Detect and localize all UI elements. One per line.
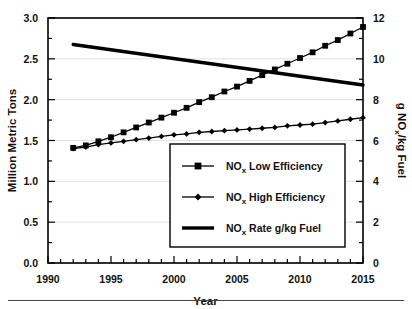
data-marker [184, 131, 190, 137]
x-tick-label: 2010 [288, 273, 312, 285]
chart-figure: 1990199520002005201020150.00.51.01.52.02… [0, 0, 412, 309]
data-marker [335, 118, 341, 124]
data-marker [171, 132, 177, 138]
data-marker [297, 55, 303, 61]
y2-tick-label: 6 [373, 135, 379, 147]
bottom-divider [8, 300, 404, 301]
data-marker [310, 49, 316, 55]
y-tick-label: 1.5 [23, 135, 38, 147]
series-line [73, 27, 363, 148]
y-axis-title: Million Metric Tons [6, 89, 18, 192]
y-tick-label: 3.0 [23, 12, 38, 24]
data-marker [285, 123, 291, 129]
data-marker [259, 125, 265, 131]
y2-axis-title: g NOx/kg Fuel [393, 103, 408, 178]
data-marker [209, 129, 215, 135]
data-marker [133, 125, 139, 131]
nox-emissions-line-chart: 1990199520002005201020150.00.51.01.52.02… [0, 0, 412, 309]
x-tick-label: 2005 [225, 273, 249, 285]
data-marker [196, 129, 202, 135]
data-marker [247, 126, 253, 132]
data-marker [247, 78, 253, 84]
data-marker [133, 137, 139, 143]
data-marker [272, 125, 278, 131]
series-3 [73, 45, 363, 85]
x-tick-label: 2000 [162, 273, 186, 285]
data-marker [196, 99, 202, 105]
x-tick-label: 1995 [99, 273, 123, 285]
data-marker [108, 134, 114, 140]
y-tick-label: 0.5 [23, 216, 38, 228]
data-marker [108, 140, 114, 146]
data-marker [146, 120, 152, 126]
data-marker [171, 110, 177, 116]
data-marker [121, 129, 127, 135]
data-marker [159, 115, 165, 121]
y-tick-label: 2.0 [23, 94, 38, 106]
y2-tick-label: 8 [373, 94, 379, 106]
data-marker [285, 61, 291, 67]
data-marker [322, 120, 328, 126]
data-marker [335, 37, 341, 43]
y2-tick-label: 10 [373, 53, 385, 65]
data-marker [310, 121, 316, 127]
y2-tick-label: 12 [373, 12, 385, 24]
data-marker [222, 89, 228, 95]
data-marker [234, 127, 240, 133]
x-tick-label: 1990 [36, 273, 60, 285]
x-axis-title: Year [193, 295, 218, 307]
data-marker [348, 31, 354, 37]
y2-tick-label: 4 [373, 175, 379, 187]
data-marker [360, 24, 366, 30]
data-marker [234, 84, 240, 90]
series-line [73, 45, 363, 85]
data-marker [184, 105, 190, 111]
y-tick-label: 1.0 [23, 175, 38, 187]
chart-legend: NOx Low EfficiencyNOx High EfficiencyNOx… [170, 144, 345, 247]
y-tick-label: 2.5 [23, 53, 38, 65]
x-tick-label: 2015 [351, 273, 375, 285]
data-marker [322, 43, 328, 49]
data-marker [222, 128, 228, 134]
data-series [70, 24, 366, 151]
y-tick-label: 0.0 [23, 257, 38, 269]
data-marker [297, 122, 303, 128]
data-marker [348, 116, 354, 122]
data-marker [259, 72, 265, 78]
data-marker [209, 94, 215, 100]
data-marker [146, 135, 152, 141]
data-marker [121, 138, 127, 144]
data-marker [195, 163, 202, 170]
y2-tick-label: 0 [373, 257, 379, 269]
y2-tick-label: 2 [373, 216, 379, 228]
data-marker [159, 134, 165, 140]
